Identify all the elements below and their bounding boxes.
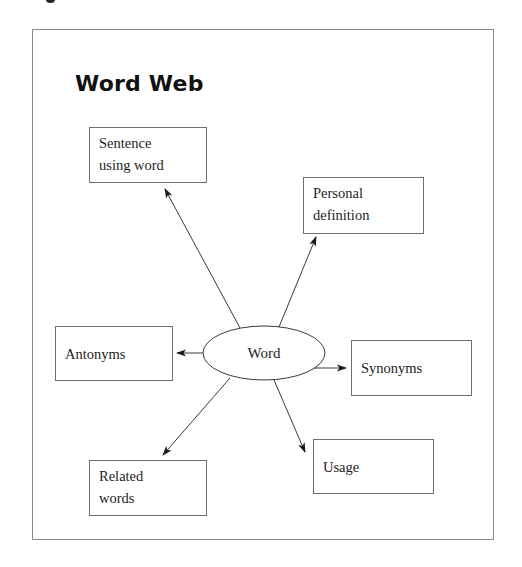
node-label: Sentence using word xyxy=(90,128,206,176)
node-antonyms: Antonyms xyxy=(55,326,173,381)
node-sentence-using-word: Sentence using word xyxy=(89,127,207,183)
node-label: Usage xyxy=(314,440,433,478)
arrow-to-personal xyxy=(279,237,316,327)
node-label: Personal definition xyxy=(304,178,423,226)
center-node-label: Word xyxy=(203,326,325,381)
arrow-to-related xyxy=(163,378,230,455)
node-related-words: Related words xyxy=(89,460,207,516)
arrow-to-sentence xyxy=(165,189,240,328)
node-usage: Usage xyxy=(313,439,434,494)
connector-layer xyxy=(0,0,522,567)
arrow-to-usage xyxy=(274,380,305,452)
node-personal-definition: Personal definition xyxy=(303,177,424,234)
node-synonyms: Synonyms xyxy=(351,340,472,396)
node-label: Synonyms xyxy=(352,341,471,379)
node-label: Antonyms xyxy=(56,327,172,365)
node-label: Related words xyxy=(90,461,206,509)
